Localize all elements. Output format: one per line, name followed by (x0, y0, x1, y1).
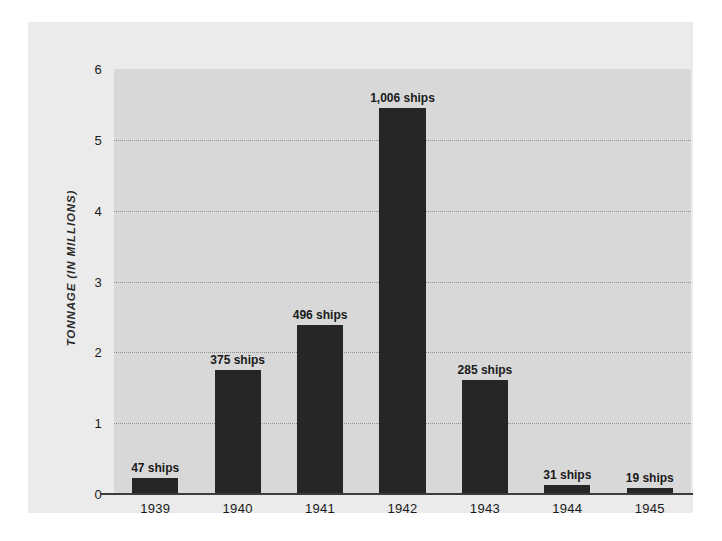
bar (462, 380, 508, 494)
y-axis-tick-label: 1 (44, 416, 114, 431)
y-axis-title: TONNAGE (IN MILLIONS) (65, 153, 77, 383)
y-axis-tick-label: 3 (44, 274, 114, 289)
x-axis-tick-label: 1939 (140, 501, 170, 516)
x-axis-tick-label: 1943 (470, 501, 500, 516)
bar (215, 370, 261, 494)
bar-value-label: 19 ships (626, 471, 674, 485)
x-axis-tick-label: 1942 (387, 501, 417, 516)
bar-value-label: 47 ships (131, 461, 179, 475)
bar (379, 108, 425, 494)
bar-value-label: 285 ships (458, 363, 513, 377)
y-axis-tick-label: 6 (44, 62, 114, 77)
chart-figure: 0123456 TONNAGE (IN MILLIONS) 1939194019… (0, 0, 722, 541)
x-axis-tick-label: 1944 (552, 501, 582, 516)
plot-area (114, 69, 691, 494)
bar-value-label: 375 ships (210, 353, 265, 367)
bar-value-label: 31 ships (543, 468, 591, 482)
x-axis-tick-label: 1941 (305, 501, 335, 516)
x-axis-tick-label: 1940 (223, 501, 253, 516)
bar-value-label: 496 ships (293, 308, 348, 322)
bar (132, 478, 178, 494)
bar (297, 325, 343, 494)
y-axis-tick-label: 4 (44, 203, 114, 218)
bar-value-label: 1,006 ships (370, 91, 435, 105)
figure-background: 0123456 TONNAGE (IN MILLIONS) 1939194019… (28, 22, 693, 513)
y-axis-tick-label: 5 (44, 132, 114, 147)
x-axis-tick-label: 1945 (635, 501, 665, 516)
x-axis-line (101, 493, 693, 495)
y-axis-tick-label: 2 (44, 345, 114, 360)
